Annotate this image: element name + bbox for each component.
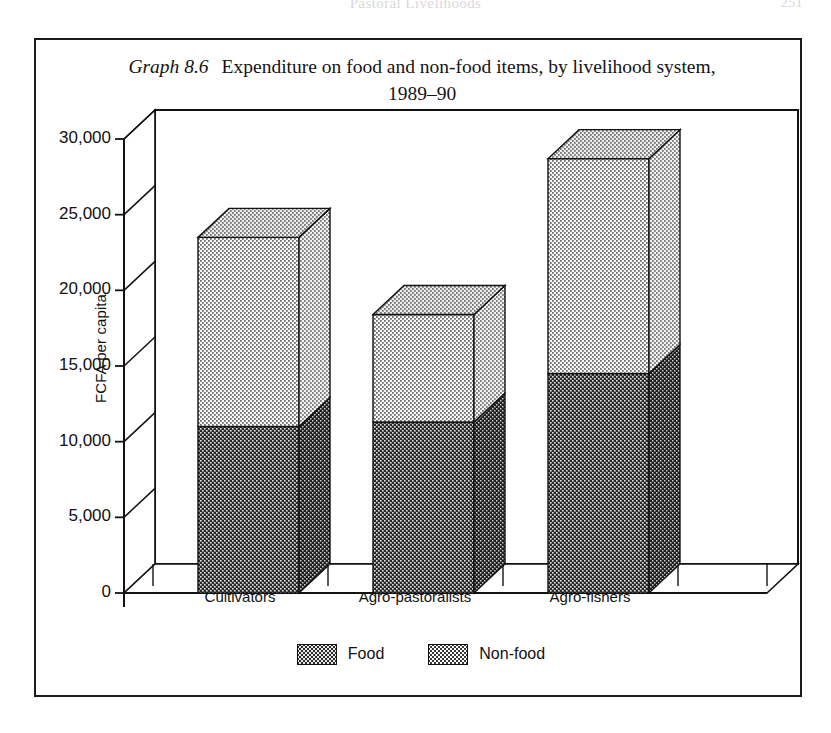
legend-item-nonfood: Non-food — [428, 644, 545, 665]
legend-item-food: Food — [297, 644, 384, 665]
legend-label-food: Food — [348, 645, 384, 663]
legend-swatch-food-icon — [297, 644, 337, 665]
chart-canvas — [36, 40, 804, 699]
bar-group-0 — [198, 208, 330, 593]
legend-swatch-nonfood-icon — [428, 644, 468, 665]
running-head: Pastoral Livelihoods 251 — [0, 0, 831, 12]
page-number: 251 — [781, 0, 803, 11]
bar-group-1 — [373, 286, 505, 593]
running-head-text: Pastoral Livelihoods — [350, 0, 482, 12]
chart-legend: Food Non-food — [226, 637, 616, 671]
chart-plot-area — [36, 40, 804, 699]
bar-group-2 — [548, 130, 680, 593]
figure-frame: Graph 8.6Expenditure on food and non-foo… — [34, 38, 802, 697]
legend-label-nonfood: Non-food — [479, 645, 545, 663]
